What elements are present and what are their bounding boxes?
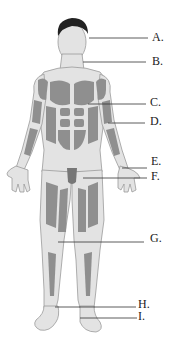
groin: [67, 168, 77, 184]
label-e: E.: [151, 155, 161, 167]
label-b: B.: [152, 55, 163, 67]
label-a: A.: [152, 31, 164, 43]
label-i: I.: [138, 310, 145, 322]
label-f: F.: [151, 170, 160, 182]
label-g: G.: [150, 232, 162, 244]
label-d: D.: [150, 115, 162, 127]
label-c: C.: [150, 96, 161, 108]
